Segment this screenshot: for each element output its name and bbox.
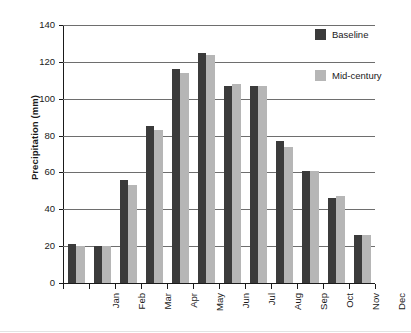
bar-mar-mid-century	[128, 185, 137, 283]
bar-oct-baseline	[302, 171, 311, 283]
y-tick-label-100: 100	[9, 94, 55, 104]
bar-aug-baseline	[250, 86, 259, 283]
y-tick-label-0: 0	[9, 278, 55, 288]
bar-jul-baseline	[224, 86, 233, 283]
gridline-80	[63, 136, 375, 137]
plot-area	[63, 25, 375, 283]
x-tick-label-mar: Mar	[163, 293, 173, 333]
legend-swatch-mid-century	[315, 70, 326, 81]
x-tick-label-apr: Apr	[189, 293, 199, 333]
bar-feb-mid-century	[102, 246, 111, 283]
legend-label-baseline: Baseline	[332, 29, 368, 40]
x-tick-mark-may	[167, 284, 168, 289]
x-tick-mark-feb	[89, 284, 90, 289]
bar-nov-baseline	[328, 198, 337, 283]
x-tick-mark-sep	[271, 284, 272, 289]
x-tick-mark-jul	[219, 284, 220, 289]
bar-sep-mid-century	[284, 147, 293, 283]
bar-mar-baseline	[120, 180, 129, 283]
gridline-140	[63, 25, 375, 26]
bar-apr-baseline	[146, 126, 155, 283]
x-tick-mark-end	[375, 284, 376, 289]
bar-dec-mid-century	[362, 235, 371, 283]
x-tick-label-sep: Sep	[319, 293, 329, 333]
bar-feb-baseline	[94, 246, 103, 283]
bar-jan-mid-century	[76, 246, 85, 283]
bar-oct-mid-century	[310, 171, 319, 283]
bottom-divider	[0, 331, 411, 332]
x-tick-label-feb: Feb	[137, 293, 147, 333]
bar-jun-mid-century	[206, 55, 215, 284]
y-tick-label-60: 60	[9, 167, 55, 177]
bar-aug-mid-century	[258, 86, 267, 283]
legend-label-mid-century: Mid-century	[332, 70, 382, 81]
x-tick-label-jul: Jul	[267, 293, 277, 333]
x-tick-mark-jun	[193, 284, 194, 289]
x-tick-label-jan: Jan	[111, 293, 121, 333]
bar-dec-baseline	[354, 235, 363, 283]
x-tick-label-oct: Oct	[345, 293, 355, 333]
bar-jul-mid-century	[232, 84, 241, 283]
y-tick-label-140: 140	[9, 20, 55, 30]
y-tick-label-120: 120	[9, 57, 55, 67]
x-tick-mark-aug	[245, 284, 246, 289]
x-tick-mark-nov	[323, 284, 324, 289]
bar-jan-baseline	[68, 244, 77, 283]
y-tick-label-40: 40	[9, 204, 55, 214]
x-tick-mark-oct	[297, 284, 298, 289]
gridline-60	[63, 172, 375, 173]
legend-swatch-baseline	[315, 29, 326, 40]
gridline-120	[63, 62, 375, 63]
y-tick-label-20: 20	[9, 241, 55, 251]
x-tick-label-aug: Aug	[293, 293, 303, 333]
bar-may-baseline	[172, 69, 181, 283]
x-tick-mark-dec	[349, 284, 350, 289]
bar-may-mid-century	[180, 73, 189, 283]
x-tick-label-may: May	[215, 293, 225, 333]
precipitation-bar-chart: Precipitation (mm) 020406080100120140 Ja…	[0, 0, 411, 333]
bar-jun-baseline	[198, 53, 207, 283]
gridline-100	[63, 99, 375, 100]
y-tick-label-80: 80	[9, 131, 55, 141]
x-tick-mark-apr	[141, 284, 142, 289]
x-tick-mark-jan	[63, 284, 64, 289]
bar-apr-mid-century	[154, 130, 163, 283]
x-tick-mark-mar	[115, 284, 116, 289]
x-tick-label-dec: Dec	[397, 293, 407, 333]
x-tick-label-jun: Jun	[241, 293, 251, 333]
bar-nov-mid-century	[336, 196, 345, 283]
bar-sep-baseline	[276, 141, 285, 283]
x-tick-label-nov: Nov	[371, 293, 381, 333]
